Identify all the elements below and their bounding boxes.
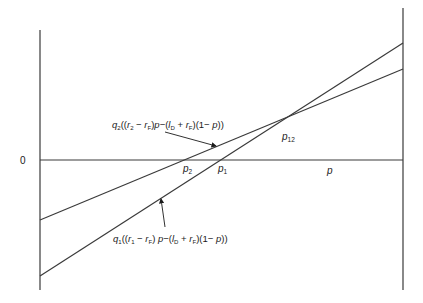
q1-label-arrow [161,199,165,227]
point-label-p12: p12 [281,131,295,143]
q2-label-arrow [165,132,216,146]
q2-expression-label: q2((r2 − rF)p−(lD + rF)(1− p)) [112,119,224,131]
q1-expression-label: q1((r1 − rF) p−(lD + rF)(1− p)) [113,233,228,245]
origin-label: 0 [20,155,26,166]
point-label-p1: p1 [217,163,228,175]
x-axis-label: p [326,165,333,176]
point-label-p2: p2 [182,163,193,175]
line-q2 [40,69,403,220]
diagram-canvas: 0 p p2 p1 p12 q2((r2 − rF)p−(lD + rF)(1−… [0,0,423,303]
